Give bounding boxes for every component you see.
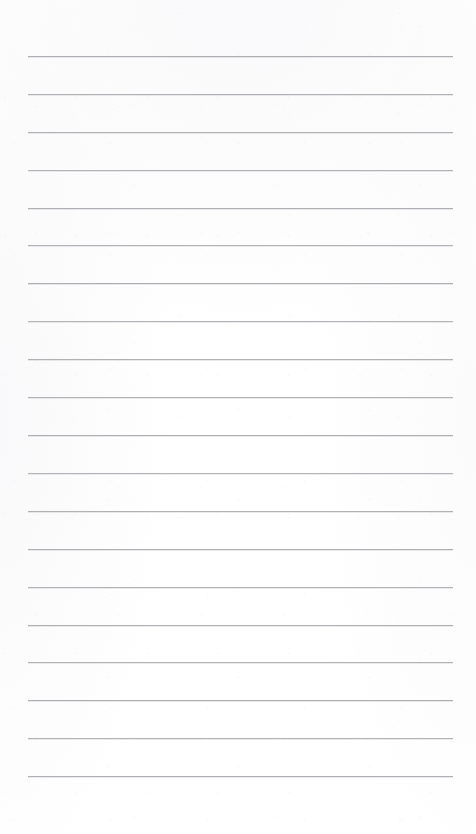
ruled-line [28, 435, 453, 436]
ruled-line [28, 397, 453, 398]
ruled-line [28, 511, 453, 512]
ruled-line [28, 473, 453, 474]
ruled-line [28, 662, 453, 663]
ruled-line [28, 587, 453, 588]
ruled-line [28, 738, 453, 739]
scanned-page [0, 0, 476, 834]
ruled-line [28, 245, 453, 246]
ruled-line [28, 56, 453, 57]
ruled-line [28, 625, 453, 626]
ruled-lines-group [0, 0, 476, 834]
ruled-line [28, 132, 453, 133]
ruled-line [28, 776, 453, 777]
ruled-line [28, 170, 453, 171]
ruled-line [28, 549, 453, 550]
ruled-line [28, 700, 453, 701]
ruled-line [28, 321, 453, 322]
ruled-line [28, 359, 453, 360]
ruled-line [28, 94, 453, 95]
ruled-line [28, 283, 453, 284]
ruled-line [28, 208, 453, 209]
